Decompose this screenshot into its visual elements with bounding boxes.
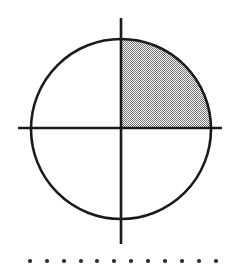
dot-marker <box>129 259 133 263</box>
dot-marker <box>95 259 99 263</box>
dot-marker <box>28 259 32 263</box>
dot-marker <box>180 259 184 263</box>
dot-marker <box>163 259 167 263</box>
dot-marker <box>62 259 66 263</box>
dot-marker <box>214 259 218 263</box>
dot-marker <box>197 259 201 263</box>
figure-canvas <box>0 0 235 278</box>
dot-marker <box>146 259 150 263</box>
dot-marker <box>79 259 83 263</box>
dot-marker <box>45 259 49 263</box>
dot-marker <box>112 259 116 263</box>
dot-row <box>28 259 218 263</box>
geometry-diagram <box>0 0 235 278</box>
